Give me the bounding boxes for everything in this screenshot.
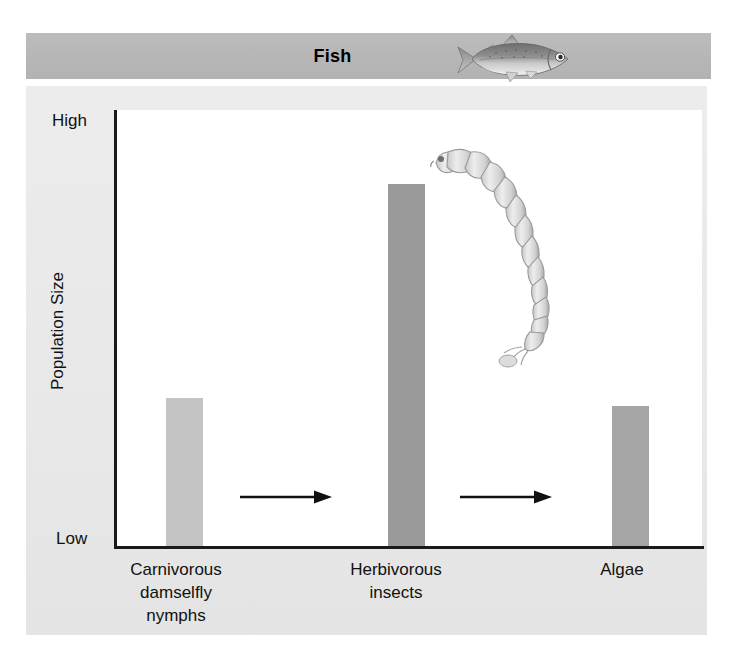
x-axis-label-algae: Algae bbox=[532, 558, 712, 581]
y-axis-tick-low: Low bbox=[56, 529, 87, 549]
bar-carnivorous-damselfly-nymphs[interactable] bbox=[166, 398, 203, 546]
x-axis-line bbox=[114, 546, 704, 549]
flow-arrow-2 bbox=[460, 489, 554, 505]
bar-algae[interactable] bbox=[612, 406, 649, 546]
midge-larva-icon bbox=[430, 135, 560, 375]
y-axis-title: Population Size bbox=[48, 241, 68, 421]
y-axis-tick-high: High bbox=[52, 111, 87, 131]
x-axis-label-herbivorous-insects: Herbivorous insects bbox=[306, 558, 486, 604]
chart-panel: High Low Population Size bbox=[26, 86, 707, 635]
header-band: Fish bbox=[26, 33, 711, 79]
bar-herbivorous-insects[interactable] bbox=[388, 184, 425, 546]
figure-container: Fish bbox=[0, 0, 730, 665]
x-axis-label-carnivorous-damselfly-nymphs: Carnivorous damselfly nymphs bbox=[86, 558, 266, 627]
fish-icon bbox=[450, 27, 576, 85]
flow-arrow-1 bbox=[240, 489, 334, 505]
y-axis-line bbox=[114, 110, 117, 549]
